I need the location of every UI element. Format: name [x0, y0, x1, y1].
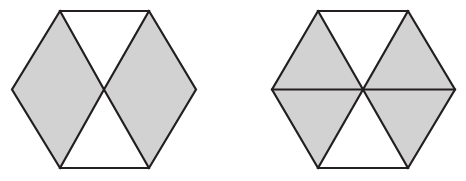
hexagon-right	[272, 11, 455, 168]
figure-canvas	[0, 0, 466, 181]
hexagon-figure	[0, 0, 466, 181]
hexagon-left	[12, 11, 196, 168]
